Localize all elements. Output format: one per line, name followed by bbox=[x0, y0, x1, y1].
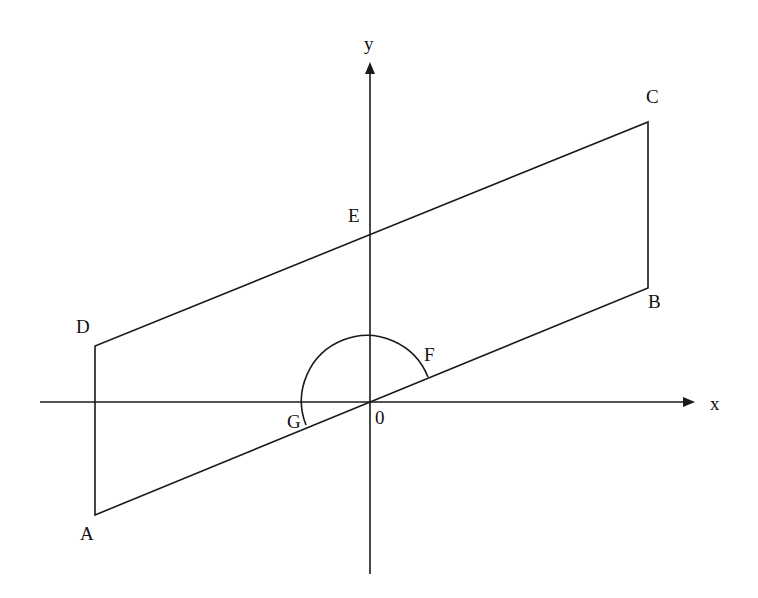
point-label-e: E bbox=[348, 205, 360, 226]
point-label-f: F bbox=[424, 344, 435, 365]
origin-label: 0 bbox=[375, 407, 385, 428]
x-axis-label: x bbox=[710, 393, 720, 414]
point-label-b: B bbox=[648, 291, 661, 312]
point-label-c: C bbox=[646, 86, 659, 107]
point-label-a: A bbox=[80, 523, 94, 544]
point-label-g: G bbox=[287, 411, 301, 432]
y-axis-label: y bbox=[364, 33, 374, 54]
angle-arc-fog bbox=[301, 335, 428, 425]
point-label-d: D bbox=[76, 316, 90, 337]
diagram-canvas: x y 0 A B C D E F G bbox=[0, 0, 758, 598]
parallelogram-abcd bbox=[95, 122, 648, 515]
